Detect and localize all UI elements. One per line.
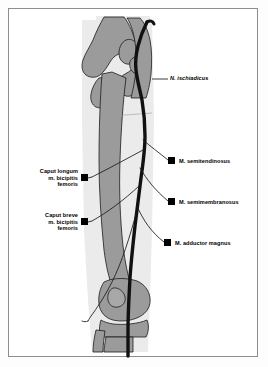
- branch-terminal-tick: [82, 321, 88, 322]
- label-n-ischiadicus[interactable]: N. ischiadicus: [170, 75, 208, 82]
- marker-adductor-magnus[interactable]: [164, 239, 171, 246]
- anatomical-figure: N. ischiadicus M. semitendinosus M. semi…: [0, 0, 268, 367]
- marker-semitendinosus[interactable]: [168, 157, 175, 164]
- label-caput-breve-line3: femoris: [45, 225, 78, 232]
- label-caput-longum-line2: m. bicipitis: [40, 175, 78, 182]
- label-caput-longum[interactable]: Caput longum m. bicipitis femoris: [40, 168, 78, 188]
- label-caput-longum-line1: Caput longum: [40, 168, 78, 175]
- label-caput-breve[interactable]: Caput breve m. bicipitis femoris: [45, 212, 78, 232]
- marker-caput-longum[interactable]: [81, 174, 88, 181]
- label-caput-breve-line2: m. bicipitis: [45, 219, 78, 226]
- label-caput-breve-line1: Caput breve: [45, 212, 78, 219]
- label-m-semimembranosus[interactable]: M. semimembranosus: [179, 199, 239, 206]
- label-m-adductor-magnus[interactable]: M. adductor magnus: [175, 240, 231, 247]
- marker-caput-breve[interactable]: [81, 218, 88, 225]
- marker-semimembranosus[interactable]: [168, 198, 175, 205]
- label-caput-longum-line3: femoris: [40, 181, 78, 188]
- label-m-semitendinosus[interactable]: M. semitendinosus: [179, 158, 230, 165]
